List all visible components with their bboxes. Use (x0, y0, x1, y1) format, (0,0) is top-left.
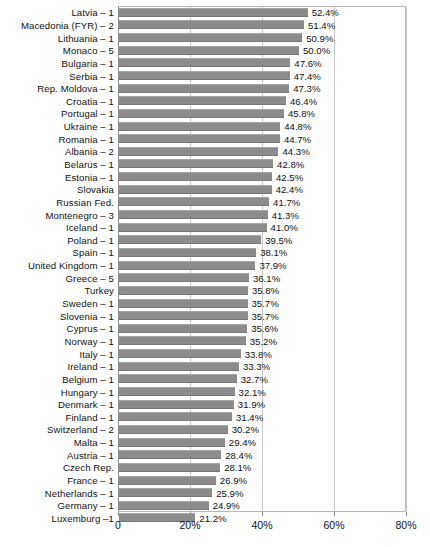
bar (119, 147, 278, 156)
bar-row: Slovenia – 135.7% (0, 309, 430, 322)
bar-track: 32.1% (119, 385, 430, 398)
bar-row: Lithuania – 150.9% (0, 31, 430, 44)
bar-value-label: 33.8% (241, 348, 272, 359)
bar-track: 47.4% (119, 69, 430, 82)
bar (119, 71, 290, 80)
bar-track: 44.3% (119, 145, 430, 158)
bar-track: 30.2% (119, 423, 430, 436)
bar-value-label: 42.8% (273, 159, 304, 170)
category-label: France – 1 (67, 475, 114, 486)
bar-track: 39.5% (119, 234, 430, 247)
bar-value-label: 47.6% (290, 57, 321, 68)
category-label: Iceland – 1 (66, 222, 114, 233)
bar-value-label: 38.1% (256, 247, 287, 258)
category-label: Norway – 1 (64, 335, 114, 346)
category-label: Luxemburg –1 (51, 512, 114, 523)
bar (119, 412, 232, 421)
category-label: Slovenia – 1 (60, 310, 114, 321)
bar-row: Poland – 139.5% (0, 234, 430, 247)
bar-value-label: 30.2% (228, 424, 259, 435)
bar-value-label: 41.7% (269, 196, 300, 207)
bar-row: Hungary – 132.1% (0, 385, 430, 398)
bar-track: 41.0% (119, 221, 430, 234)
category-label: Monaco – 5 (63, 45, 114, 56)
bar (119, 311, 248, 320)
bar-track: 42.4% (119, 183, 430, 196)
bar (119, 8, 308, 17)
category-label: Portugal – 1 (61, 108, 114, 119)
bar-track: 32.7% (119, 373, 430, 386)
bar (119, 248, 256, 257)
bar-track: 38.1% (119, 246, 430, 259)
bar-value-label: 25.9% (212, 487, 243, 498)
x-tick-mark (334, 512, 335, 516)
bar-row: Macedonia (FYR) – 251.4% (0, 19, 430, 32)
category-label: Ukraine – 1 (64, 121, 114, 132)
bar-track: 45.8% (119, 107, 430, 120)
bar-value-label: 51.4% (304, 19, 335, 30)
bar-value-label: 46.4% (286, 95, 317, 106)
bar (119, 159, 273, 168)
bar-row: Germany – 124.9% (0, 499, 430, 512)
bar-row: Rep. Moldova – 147.3% (0, 82, 430, 95)
bar-row: Italy – 133.8% (0, 347, 430, 360)
x-tick-label: 60% (323, 519, 344, 532)
bar-value-label: 52.4% (308, 7, 339, 18)
bar-row: Switzerland – 230.2% (0, 423, 430, 436)
category-label: Montenegro – 3 (45, 209, 114, 220)
bar-value-label: 47.4% (290, 70, 321, 81)
category-label: Serbia – 1 (69, 70, 114, 81)
bar-value-label: 45.8% (284, 108, 315, 119)
bar (119, 172, 272, 181)
bar-value-label: 50.9% (302, 32, 333, 43)
bar-row: Turkey35.8% (0, 284, 430, 297)
bar-track: 31.4% (119, 411, 430, 424)
category-label: Estonia – 1 (65, 171, 114, 182)
category-label: United Kingdom – 1 (28, 260, 114, 271)
bar-track: 28.4% (119, 448, 430, 461)
bar (119, 501, 209, 510)
category-label: Malta – 1 (74, 437, 114, 448)
bar-value-label: 31.4% (232, 411, 263, 422)
category-label: Russian Fed. (56, 196, 114, 207)
bar-track: 37.9% (119, 259, 430, 272)
bar-track: 28.1% (119, 461, 430, 474)
bar (119, 450, 221, 459)
bar-row: Montenegro – 341.3% (0, 208, 430, 221)
bar-row: Ireland – 133.3% (0, 360, 430, 373)
x-tick-mark (190, 512, 191, 516)
bar-value-label: 32.1% (235, 386, 266, 397)
x-tick-mark (262, 512, 263, 516)
bar-row: Finland – 131.4% (0, 411, 430, 424)
x-tick-label: 80% (395, 519, 416, 532)
bar-value-label: 28.4% (221, 449, 252, 460)
bar (119, 134, 280, 143)
bar-value-label: 29.4% (225, 437, 256, 448)
bar (119, 362, 239, 371)
bar-value-label: 35.7% (248, 298, 279, 309)
bar-value-label: 26.9% (216, 475, 247, 486)
bar-track: 31.9% (119, 398, 430, 411)
bar-value-label: 36.1% (249, 272, 280, 283)
bar-track: 24.9% (119, 499, 430, 512)
category-label: Lithuania – 1 (58, 32, 114, 43)
bar-value-label: 37.9% (255, 260, 286, 271)
bar-value-label: 47.3% (289, 83, 320, 94)
category-label: Sweden – 1 (62, 298, 114, 309)
bar (119, 438, 225, 447)
bar-row: Malta – 129.4% (0, 436, 430, 449)
bar (119, 273, 249, 282)
bar-track: 44.8% (119, 120, 430, 133)
category-label: Greece – 5 (66, 272, 114, 283)
category-label: Czech Rep. (63, 462, 114, 473)
bar-row: Monaco – 550.0% (0, 44, 430, 57)
bar-value-label: 42.5% (272, 171, 303, 182)
bar-row: Bulgaria – 147.6% (0, 57, 430, 70)
bar-track: 46.4% (119, 94, 430, 107)
bar-row: United Kingdom – 137.9% (0, 259, 430, 272)
bar (119, 109, 284, 118)
bar-row: Spain – 138.1% (0, 246, 430, 259)
bar-row: Cyprus – 135.6% (0, 322, 430, 335)
bar-track: 52.4% (119, 6, 430, 19)
bar (119, 46, 299, 55)
